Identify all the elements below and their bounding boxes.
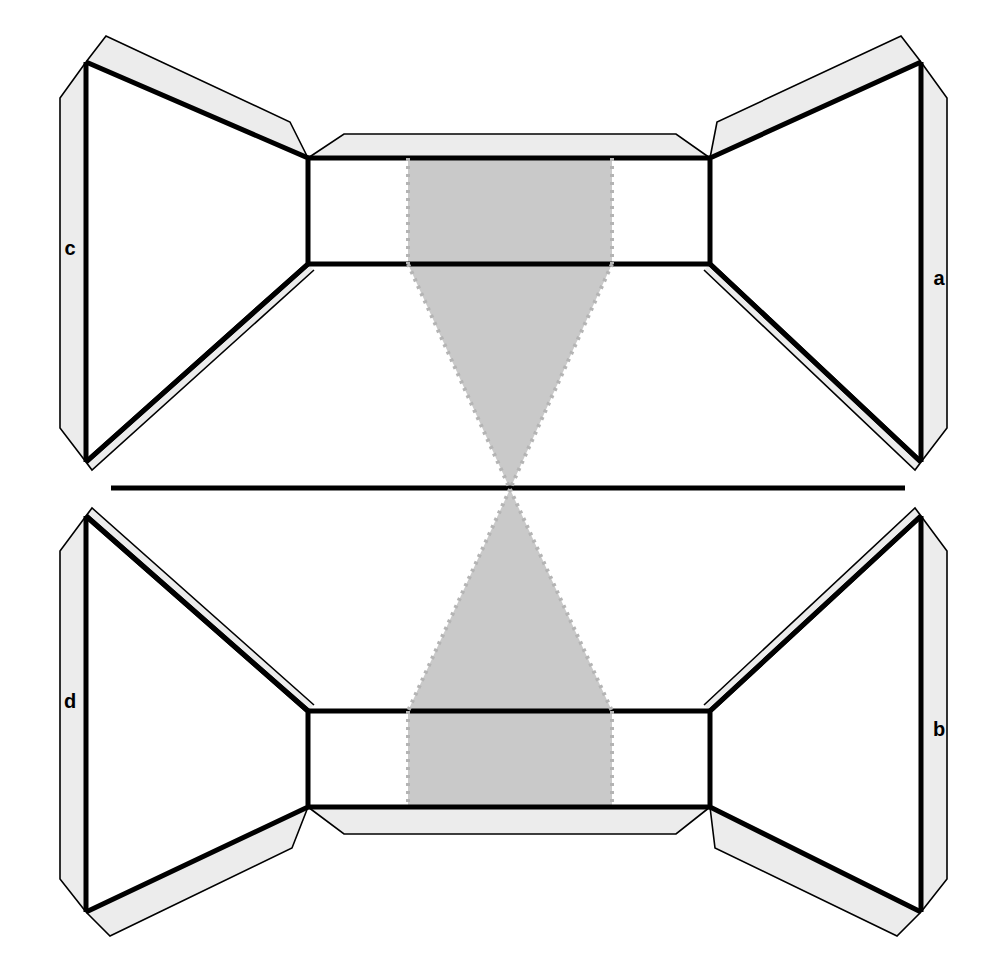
tab-bottom-center-flap: [308, 807, 710, 834]
label-c: c: [64, 237, 75, 259]
tab-lower-left-slant: [86, 807, 308, 936]
tab-lower-right-slant: [710, 807, 921, 936]
shade-upper: [408, 158, 612, 489]
diagram-canvas: c a d b: [0, 0, 1007, 959]
net-diagram: c a d b: [0, 0, 1007, 959]
tab-sliver-upper-right: [704, 264, 921, 470]
waist-diagonal-left-upper: [86, 516, 308, 711]
label-b: b: [933, 718, 945, 740]
tab-sliver-lower-right: [704, 508, 921, 711]
tab-sliver-upper-left: [86, 264, 314, 470]
tab-upper-left-slant: [86, 36, 308, 158]
tab-left-lower: [60, 516, 86, 912]
shade-lower: [408, 489, 612, 807]
tab-top-center-flap: [308, 134, 710, 158]
waist-diagonal-right-upper: [710, 516, 921, 711]
tab-right-lower: [921, 516, 947, 912]
tab-sliver-lower-left: [86, 508, 314, 711]
label-a: a: [933, 267, 945, 289]
waist-diagonal-right-lower: [710, 264, 921, 462]
tab-left-upper: [60, 62, 86, 462]
waist-diagonal-left-lower: [86, 264, 308, 462]
tab-upper-right-slant: [710, 36, 921, 158]
label-d: d: [64, 690, 76, 712]
tab-right-upper: [921, 62, 947, 462]
